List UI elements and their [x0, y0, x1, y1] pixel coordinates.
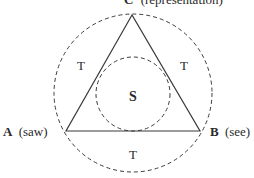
right-vertex-label: B (see) [210, 124, 250, 139]
apex-letter: C [124, 0, 133, 7]
apex-label: C (representation) [124, 0, 223, 7]
right-vertex-text: (see) [225, 124, 250, 139]
apex-text: (representation) [141, 0, 223, 7]
left-vertex-label: A (saw) [3, 124, 48, 139]
region-label-top-right: T [180, 58, 188, 73]
right-vertex-letter: B [210, 124, 219, 139]
semiotic-triangle-diagram: C (representation) A (saw) B (see) S T T… [0, 0, 254, 178]
region-label-bottom: T [129, 147, 137, 162]
center-label: S [129, 89, 137, 104]
left-vertex-text: (saw) [19, 124, 48, 139]
region-label-top-left: T [77, 58, 85, 73]
triangle [66, 15, 200, 131]
left-vertex-letter: A [3, 124, 13, 139]
